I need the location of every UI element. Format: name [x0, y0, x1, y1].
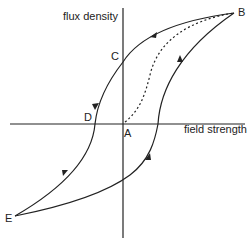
point-b-label: B: [238, 7, 245, 18]
initial-curve: [125, 13, 234, 122]
descending-branch: [15, 13, 234, 216]
point-c-label: C: [111, 51, 119, 62]
ascending-branch: [15, 13, 234, 216]
hysteresis-diagram: [0, 0, 252, 239]
arrow-icon: [150, 32, 157, 38]
point-a-label: A: [124, 128, 131, 139]
arrow-icon: [62, 170, 68, 176]
point-d-label: D: [84, 112, 92, 123]
point-e-label: E: [5, 213, 12, 224]
arrow-icon: [177, 55, 183, 62]
y-axis-label: flux density: [63, 11, 118, 22]
x-axis-label: field strength: [184, 124, 247, 135]
